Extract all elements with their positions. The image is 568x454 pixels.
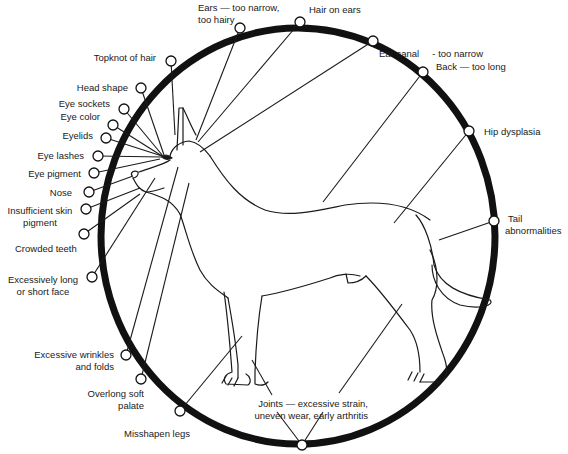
label-line: Hip dysplasia [484,126,541,138]
label-head-shape: Head shape [77,82,128,94]
label-line: Head shape [77,82,128,94]
label-joints: Joints — excessive strain, uneven wear, … [254,398,368,422]
label-line: Misshapen legs [124,428,190,440]
label-line: Eye sockets [59,98,110,110]
label-eye-sockets: Eye sockets [59,98,110,110]
label-line: too hairy [198,14,279,26]
label-line: Insufficient skin [6,205,74,217]
label-eye-lashes: Eye lashes [38,150,84,162]
label-wrinkles: Excessive wrinkles and folds [34,349,114,373]
label-line: Eye pigment [28,168,81,180]
label-line: abnormalities [505,225,562,237]
label-line: Ears — too narrow, [198,2,279,14]
label-crowded-teeth: Crowded teeth [15,243,77,255]
label-line: Eyelids [62,130,93,142]
label-line: Topknot of hair [94,52,156,64]
label-line: Joints — excessive strain, [254,398,368,410]
label-nose: Nose [50,187,72,199]
label-ears: Ears — too narrow, too hairy [198,2,279,26]
label-hip-dysplasia: Hip dysplasia [484,126,541,138]
label-line: Excessive wrinkles [34,349,114,361]
label-line: Eye color [60,111,100,123]
label-ear-canal: Ear canal - too narrow [379,24,483,84]
label-skin-pigment: Insufficient skin pigment [6,205,74,229]
label-eyelids: Eyelids [62,130,93,142]
label-line: or short face [6,286,80,298]
label-topknot: Topknot of hair [94,52,156,64]
label-line: Eye lashes [38,150,84,162]
label-line: and folds [34,361,114,373]
label-line: Ear canal - too narrow [379,48,483,60]
label-line: Crowded teeth [15,243,77,255]
label-line: Nose [50,187,72,199]
label-face: Excessively long or short face [6,274,80,298]
label-tail: Tail abnormalities [505,213,562,237]
label-line: Hair on ears [309,4,361,16]
label-back: Back — too long [436,61,506,73]
label-line: Overlong soft [88,388,145,400]
label-palate: Overlong soft palate [88,388,145,412]
label-line: uneven wear, early arthritis [254,410,368,422]
label-line: Back — too long [436,61,506,73]
label-line: Excessively long [6,274,80,286]
label-line: palate [88,400,145,412]
dog-diagram: Ears — too narrow, too hairy Hair on ear… [0,0,568,454]
label-misshapen-legs: Misshapen legs [124,428,190,440]
label-line: pigment [6,217,74,229]
label-eye-pigment: Eye pigment [28,168,81,180]
label-line: Tail [505,213,562,225]
label-hair-on-ears: Hair on ears [309,4,361,16]
label-eye-color: Eye color [60,111,100,123]
dog-outline [131,108,491,386]
